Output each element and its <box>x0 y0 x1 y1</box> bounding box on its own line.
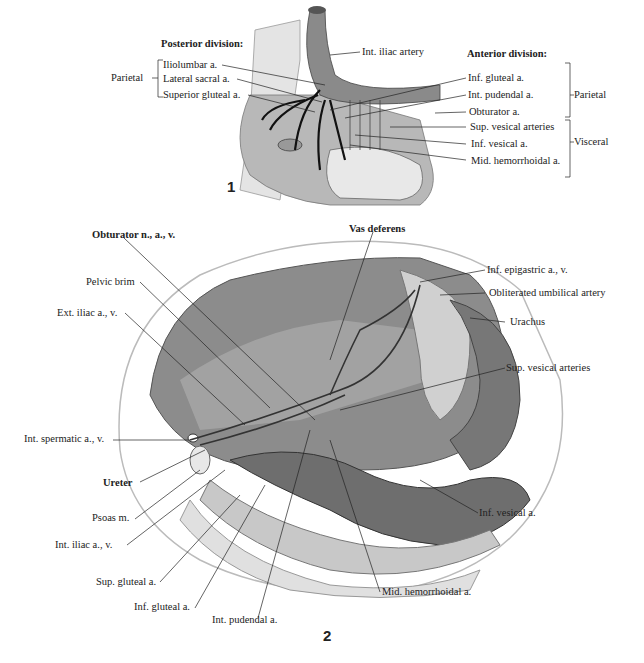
label-lateral-sacral: Lateral sacral a. <box>163 73 230 85</box>
label-sup-gluteal: Sup. gluteal a. <box>96 576 156 588</box>
anatomical-illustration <box>0 0 644 663</box>
figure-1-number: 1 <box>227 178 235 195</box>
label-iliolumbar: Iliolumbar a. <box>163 59 217 71</box>
label-sup-vesical-2: Sup. vesical arteries <box>506 362 590 374</box>
label-obturator-nav: Obturator n., a., v. <box>92 229 175 241</box>
label-int-pudendal: Int. pudendal a. <box>468 89 533 101</box>
posterior-division-heading: Posterior division: <box>161 38 243 50</box>
label-inf-vesical: Inf. vesical a. <box>471 138 528 150</box>
label-mid-hemorrhoidal-2: Mid. hemorrhoidal a. <box>382 586 471 598</box>
label-int-iliac-artery: Int. iliac artery <box>362 46 424 58</box>
label-obliterated-umbilical: Obliterated umbilical artery <box>489 287 606 299</box>
label-psoas: Psoas m. <box>92 512 129 524</box>
posterior-group-label: Parietal <box>111 72 143 84</box>
label-inf-gluteal-2: Inf. gluteal a. <box>134 601 190 613</box>
label-inf-epigastric: Inf. epigastric a., v. <box>487 264 568 276</box>
label-int-spermatic: Int. spermatic a., v. <box>24 433 104 445</box>
label-int-iliac-av: Int. iliac a., v. <box>55 539 112 551</box>
anterior-group-parietal: Parietal <box>574 89 606 101</box>
label-int-pudendal-2: Int. pudendal a. <box>212 614 277 626</box>
label-inf-gluteal: Inf. gluteal a. <box>468 72 524 84</box>
label-obturator: Obturator a. <box>469 106 520 118</box>
label-vas-deferens: Vas deferens <box>349 223 405 235</box>
label-sup-vesical: Sup. vesical arteries <box>470 121 554 133</box>
label-ureter: Ureter <box>103 477 133 489</box>
figure-2-number: 2 <box>323 627 331 644</box>
label-inf-vesical-2: Inf. vesical a. <box>479 507 536 519</box>
anterior-division-heading: Anterior division: <box>467 48 547 60</box>
label-urachus: Urachus <box>510 316 545 328</box>
anterior-group-visceral: Visceral <box>574 136 608 148</box>
label-pelvic-brim: Pelvic brim <box>86 276 135 288</box>
label-ext-iliac: Ext. iliac a., v. <box>57 307 117 319</box>
label-mid-hemorrhoidal: Mid. hemorrhoidal a. <box>471 155 560 167</box>
label-superior-gluteal: Superior gluteal a. <box>163 89 240 101</box>
